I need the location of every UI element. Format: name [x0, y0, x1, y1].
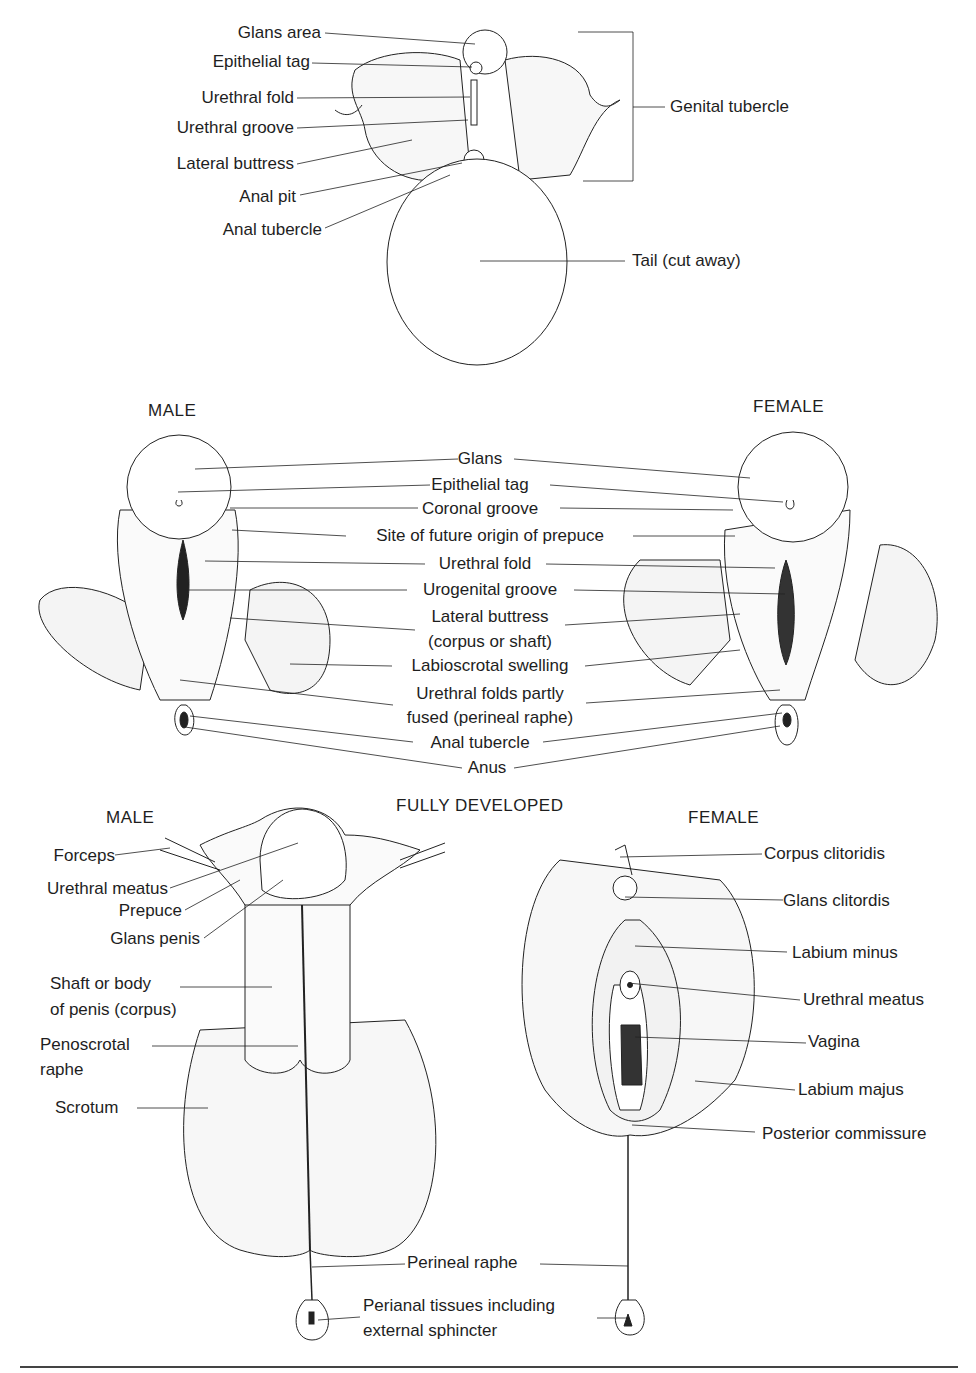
heading-middle-female: FEMALE [753, 397, 824, 417]
label-shaft-or-body: Shaft or body [50, 974, 151, 994]
label-tail: Tail (cut away) [632, 251, 741, 271]
heading-middle-male: MALE [148, 401, 196, 421]
label-urethral-meatus-male: Urethral meatus [47, 879, 168, 899]
label-urethral-fold-mid: Urethral fold [300, 554, 670, 574]
label-glans-area: Glans area [238, 23, 321, 43]
label-external-sphincter: external sphincter [363, 1321, 497, 1341]
label-labioscrotal-swelling: Labioscrotal swelling [300, 656, 680, 676]
label-anal-pit: Anal pit [239, 187, 296, 207]
middle-male-drawing [39, 435, 330, 735]
heading-bottom-female: FEMALE [688, 808, 759, 828]
label-site-of-prepuce: Site of future origin of prepuce [300, 526, 680, 546]
label-glans-clitordis: Glans clitordis [783, 891, 890, 911]
label-lateral-buttress-top: Lateral buttress [177, 154, 294, 174]
label-epithelial-tag-top: Epithelial tag [213, 52, 310, 72]
label-perianal-tissues: Perianal tissues including [363, 1296, 555, 1316]
label-fused-perineal-raphe: fused (perineal raphe) [300, 708, 680, 728]
label-labium-majus: Labium majus [798, 1080, 904, 1100]
label-vagina: Vagina [808, 1032, 860, 1052]
label-epithelial-tag-mid: Epithelial tag [300, 475, 660, 495]
label-of-penis-corpus: of penis (corpus) [50, 1000, 177, 1020]
heading-fully-developed: FULLY DEVELOPED [396, 796, 564, 816]
label-anus: Anus [300, 758, 674, 778]
label-prepuce: Prepuce [119, 901, 182, 921]
label-urethral-groove: Urethral groove [177, 118, 294, 138]
label-urethral-meatus-female: Urethral meatus [803, 990, 924, 1010]
label-urethral-folds-partly: Urethral folds partly [300, 684, 680, 704]
indifferent-stage-drawing [335, 30, 620, 365]
label-urethral-fold-top: Urethral fold [201, 88, 294, 108]
bottom-female-drawing [522, 845, 754, 1335]
label-glans-penis: Glans penis [110, 929, 200, 949]
label-perineal-raphe: Perineal raphe [407, 1253, 518, 1273]
label-anal-tubercle-top: Anal tubercle [223, 220, 322, 240]
label-posterior-commissure: Posterior commissure [762, 1124, 926, 1144]
heading-bottom-male: MALE [106, 808, 154, 828]
bottom-rule [20, 1366, 958, 1368]
label-lateral-buttress-mid: Lateral buttress [300, 607, 680, 627]
bottom-male-drawing [160, 808, 445, 1340]
label-labium-minus: Labium minus [792, 943, 898, 963]
label-coronal-groove: Coronal groove [300, 499, 660, 519]
label-corpus-or-shaft: (corpus or shaft) [300, 632, 680, 652]
label-forceps: Forceps [54, 846, 115, 866]
label-genital-tubercle: Genital tubercle [670, 97, 789, 117]
label-glans: Glans [300, 449, 660, 469]
label-raphe: raphe [40, 1060, 83, 1080]
label-anal-tubercle-mid: Anal tubercle [300, 733, 660, 753]
label-scrotum: Scrotum [55, 1098, 118, 1118]
label-urogenital-groove: Urogenital groove [300, 580, 680, 600]
label-corpus-clitoridis: Corpus clitoridis [764, 844, 885, 864]
label-penoscrotal: Penoscrotal [40, 1035, 130, 1055]
